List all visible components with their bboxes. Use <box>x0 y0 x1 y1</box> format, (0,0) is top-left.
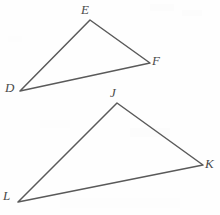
vertex-label-d: D <box>5 81 14 94</box>
vertex-label-j: J <box>110 86 116 99</box>
triangles-drawing <box>0 0 220 215</box>
triangle-def-outline <box>20 20 150 91</box>
vertex-label-f: F <box>152 54 160 67</box>
vertex-label-l: L <box>3 189 10 202</box>
vertex-label-e: E <box>81 3 89 16</box>
vertex-label-k: K <box>205 157 214 170</box>
scan-noise-texture <box>0 0 220 215</box>
triangle-jkl-outline <box>18 103 203 202</box>
geometry-figure: D E F J K L <box>0 0 220 215</box>
